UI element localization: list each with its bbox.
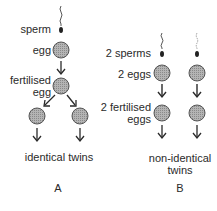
arrow-diagonal-right-icon (67, 95, 76, 106)
sperm-icon (160, 33, 164, 57)
label-2-sperms: 2 sperms (106, 47, 151, 59)
arrow-down-icon (57, 61, 65, 74)
label-fertilised-egg-line1: fertilised (10, 74, 51, 86)
arrow-down-icon (158, 125, 166, 138)
label-non-identical-twins-line1: non-identical (138, 152, 217, 164)
egg-icon (53, 42, 69, 58)
label-sperm: sperm (20, 23, 51, 35)
label-identical-twins: identical twins (18, 151, 100, 163)
twin-embryo-icon (72, 108, 88, 124)
arrow-down-icon (76, 128, 84, 141)
label-2-fertilised-eggs-line1: 2 fertilised (101, 101, 151, 113)
egg-icon (154, 65, 170, 81)
label-fertilised-egg-line2: egg (33, 86, 51, 98)
label-non-identical-twins-line2: twins (138, 164, 217, 176)
fertilised-egg-icon (53, 78, 69, 94)
arrow-down-icon (33, 128, 41, 141)
egg-icon (189, 65, 205, 81)
twin-embryo-icon (29, 108, 45, 124)
sperm-icon (59, 6, 63, 33)
arrow-down-icon (158, 84, 166, 97)
panel-letter-a: A (48, 182, 68, 194)
label-egg: egg (33, 44, 51, 56)
sperm-icon (195, 33, 199, 57)
arrow-down-icon (193, 84, 201, 97)
label-2-fertilised-eggs-line2: eggs (127, 113, 151, 125)
panel-b (154, 33, 205, 138)
fertilised-egg-icon (154, 105, 170, 121)
panel-letter-b: B (170, 182, 190, 194)
label-2-eggs: 2 eggs (118, 68, 151, 80)
arrow-down-icon (193, 125, 201, 138)
fertilised-egg-icon (189, 105, 205, 121)
